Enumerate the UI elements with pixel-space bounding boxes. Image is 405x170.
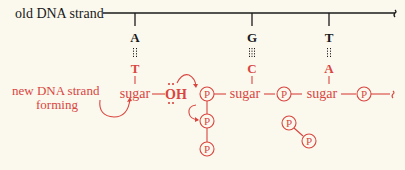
curved-arrow-icon: [100, 99, 130, 117]
old-base-a: A: [130, 30, 140, 45]
old-base-t: T: [325, 30, 334, 45]
phosphate-branch-2: P: [200, 142, 214, 156]
dna-replication-diagram: old DNA strand A G T T C A new DNA stran…: [0, 0, 405, 170]
phosphate-1: P: [200, 87, 214, 101]
released-phosphate-2: P: [302, 134, 316, 148]
sugar-2: sugar: [230, 86, 261, 101]
svg-text:P: P: [286, 117, 292, 129]
svg-text:P: P: [361, 88, 367, 100]
svg-text:P: P: [306, 135, 312, 147]
break-icon: [394, 10, 396, 17]
sugar-1: sugar: [120, 86, 151, 101]
svg-text:P: P: [204, 88, 210, 100]
old-strand-label: old DNA strand: [15, 6, 104, 21]
new-strand-label-line1: new DNA strand: [12, 83, 100, 98]
phosphate-2: P: [277, 87, 291, 101]
new-base-t: T: [131, 61, 140, 76]
svg-text:P: P: [204, 115, 210, 127]
hydrogen-bonds: [134, 48, 331, 58]
new-base-c: C: [247, 61, 256, 76]
old-base-g: G: [247, 30, 257, 45]
new-base-a: A: [324, 61, 334, 76]
nucleophilic-attack-arrow-icon: [177, 75, 196, 86]
sugar-3: sugar: [307, 86, 338, 101]
released-phosphate-1: P: [282, 116, 296, 130]
phosphate-branch-1: P: [200, 114, 214, 128]
svg-text:P: P: [281, 88, 287, 100]
hydroxyl-group: OH: [165, 87, 187, 102]
new-strand-label-line2: forming: [36, 97, 78, 112]
break-icon: [392, 91, 394, 98]
svg-text:P: P: [204, 143, 210, 155]
phosphate-3: P: [357, 87, 371, 101]
bond-break-arrow-icon: [189, 105, 198, 120]
